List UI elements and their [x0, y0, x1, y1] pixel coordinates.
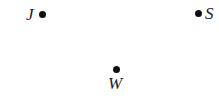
point-dot-s — [195, 10, 202, 17]
diagram-canvas: J S W — [0, 0, 219, 109]
point-dot-j — [39, 11, 46, 18]
point-label-j: J — [26, 6, 34, 23]
point-label-w: W — [108, 75, 122, 92]
point-label-s: S — [205, 5, 214, 22]
point-dot-w — [113, 66, 120, 73]
